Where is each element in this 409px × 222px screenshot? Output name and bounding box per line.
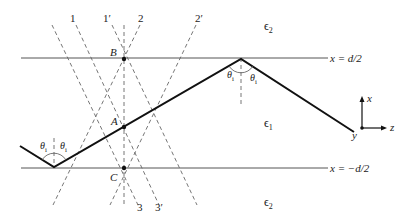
axis-y-dot	[360, 126, 364, 130]
point-label-B: B	[110, 47, 117, 58]
wavefront-line-2	[53, 25, 140, 205]
point-label-A: A	[111, 116, 118, 127]
axis-x-arrowhead	[360, 96, 365, 102]
wavefront-label-2p: 2′	[195, 13, 203, 24]
angle-label-left-incident: θi	[40, 141, 47, 154]
axis-z-arrowhead	[381, 126, 387, 131]
boundary-label-top: x = d/2	[330, 53, 362, 64]
point-label-C: C	[110, 172, 117, 183]
axis-label-z: z	[390, 122, 394, 133]
wavefront-label-1: 1	[70, 13, 76, 24]
wavefronts	[52, 25, 241, 205]
point-C-dot	[122, 166, 126, 170]
wavefront-label-3p: 3′	[155, 202, 163, 213]
boundary-label-bottom: x = −d/2	[330, 163, 369, 174]
region-label-cladding-bottom: ϵ2	[264, 196, 273, 211]
angle-label-right-reflected: θi	[250, 73, 257, 86]
axis-label-y: y	[352, 130, 357, 141]
point-A-dot	[122, 125, 126, 129]
axis-label-x: x	[367, 93, 372, 104]
angle-label-left-reflected: θi	[60, 141, 67, 154]
zigzag-ray	[20, 59, 354, 167]
wavefront-label-3: 3	[137, 202, 143, 213]
region-label-cladding-top: ϵ2	[264, 20, 273, 35]
wavefront-label-1p: 1′	[103, 13, 111, 24]
wavefront-label-2: 2	[138, 13, 144, 24]
waveguide-diagram: 1 1′ 2 2′ 3 3′ B A C x = d/2 x = −d/2 ϵ2…	[0, 0, 409, 222]
wavefront-line-2p	[110, 25, 196, 205]
region-label-core: ϵ1	[264, 117, 273, 132]
diagram-canvas	[0, 0, 409, 222]
point-B-dot	[122, 57, 126, 61]
angle-label-right-incident: θi	[227, 70, 234, 83]
